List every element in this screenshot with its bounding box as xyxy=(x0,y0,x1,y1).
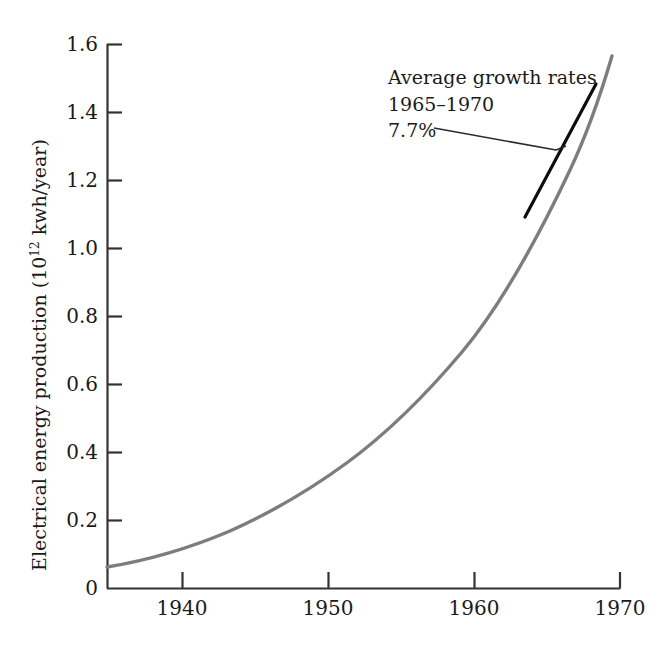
svg-text:Electrical energy production (: Electrical energy production (1012 kwh/y… xyxy=(28,139,50,571)
figure-background xyxy=(0,0,663,646)
y-axis-title: Electrical energy production (1012 kwh/y… xyxy=(28,139,50,571)
x-tick-label-1950: 1950 xyxy=(303,596,354,620)
y-tick-label-0.4: 0.4 xyxy=(66,440,98,464)
y-axis-title-suffix: kwh/year) xyxy=(28,139,50,241)
y-tick-label-1.2: 1.2 xyxy=(66,168,98,192)
chart-figure: 1.6 1.4 1.2 1.0 0.8 0.6 0.4 0.2 0 1940 1… xyxy=(0,0,663,646)
y-tick-label-0.8: 0.8 xyxy=(66,304,98,328)
x-tick-label-1940: 1940 xyxy=(157,596,208,620)
y-tick-label-0.6: 0.6 xyxy=(66,372,98,396)
y-axis-tick-labels: 1.6 1.4 1.2 1.0 0.8 0.6 0.4 0.2 0 xyxy=(66,32,98,600)
x-tick-label-1970: 1970 xyxy=(595,596,646,620)
annotation-line-2: 1965–1970 xyxy=(388,93,494,115)
y-axis-title-exponent: 12 xyxy=(28,241,42,256)
y-tick-label-0.2: 0.2 xyxy=(66,508,98,532)
y-tick-label-1.4: 1.4 xyxy=(66,100,98,124)
x-tick-label-1960: 1960 xyxy=(449,596,500,620)
y-tick-label-1.6: 1.6 xyxy=(66,32,98,56)
y-axis-title-prefix: Electrical energy production (10 xyxy=(28,257,50,571)
annotation-line-3: 7.7% xyxy=(388,119,436,141)
y-tick-label-1.0: 1.0 xyxy=(66,236,98,260)
annotation-line-1: Average growth rates xyxy=(387,66,597,88)
y-tick-label-0: 0 xyxy=(85,576,98,600)
